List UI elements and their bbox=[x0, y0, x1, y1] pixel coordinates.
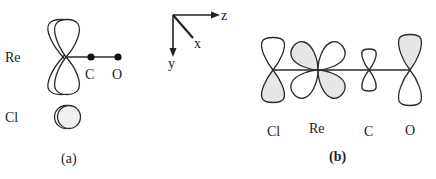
panel-b: Cl Re C O (b) bbox=[262, 35, 422, 166]
o-label-a: O bbox=[112, 67, 122, 82]
x-axis-line bbox=[173, 15, 193, 38]
o-upper-lobe bbox=[399, 35, 422, 71]
c-lower-lobe bbox=[362, 70, 376, 91]
re-lobe-upper-left bbox=[291, 42, 318, 70]
re-lobe-lower-left bbox=[291, 70, 318, 98]
re-lobe-upper-right bbox=[318, 42, 345, 70]
cl-label-a: Cl bbox=[5, 110, 18, 125]
o-label-b: O bbox=[405, 123, 415, 138]
cl-orbital-a bbox=[55, 106, 81, 129]
panel-a-caption: (a) bbox=[61, 151, 77, 167]
c-upper-lobe bbox=[362, 49, 376, 70]
oxygen-atom-dot bbox=[114, 53, 121, 60]
re-lobe-lower-right bbox=[318, 70, 345, 98]
c-label-b: C bbox=[364, 124, 373, 139]
orbital-diagram: Re C O Cl (a) z y x bbox=[0, 0, 436, 179]
y-axis-label: y bbox=[168, 56, 175, 71]
cl-upper-lobe bbox=[262, 38, 285, 71]
x-axis-label: x bbox=[194, 36, 201, 51]
cl-lower-lobe bbox=[262, 70, 285, 103]
o-lower-lobe bbox=[399, 70, 422, 106]
carbon-atom-dot bbox=[87, 53, 94, 60]
coordinate-axes: z y x bbox=[168, 8, 227, 71]
c-label-a: C bbox=[85, 67, 94, 82]
panel-a: Re C O Cl (a) bbox=[5, 20, 122, 168]
re-label-b: Re bbox=[309, 121, 325, 136]
z-axis-label: z bbox=[221, 8, 227, 23]
panel-b-caption: (b) bbox=[329, 149, 346, 165]
re-label-a: Re bbox=[5, 50, 21, 65]
cl-orbital-front bbox=[58, 106, 81, 129]
cl-label-b: Cl bbox=[267, 124, 280, 139]
z-axis-arrowhead bbox=[211, 12, 220, 19]
